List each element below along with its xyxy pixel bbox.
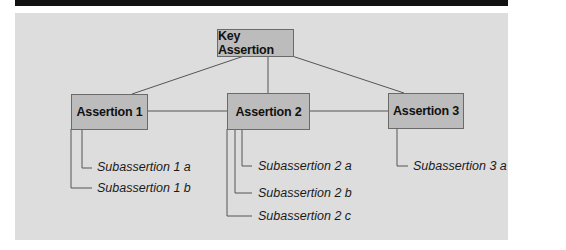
assertion-3-node: Assertion 3 — [388, 93, 464, 129]
subassertion-3a: Subassertion 3 a — [413, 159, 507, 173]
key-assertion-label: Key Assertion — [218, 29, 293, 57]
connector-a3-sub-a — [397, 128, 408, 166]
subassertion-2b: Subassertion 2 b — [258, 186, 352, 200]
assertion-1-node: Assertion 1 — [71, 94, 148, 130]
subassertion-1b: Subassertion 1 b — [97, 181, 191, 195]
assertion-2-label: Assertion 2 — [236, 105, 302, 119]
connector-a2-sub-a — [242, 129, 252, 166]
subassertion-1a: Subassertion 1 a — [97, 160, 191, 174]
assertion-3-label: Assertion 3 — [393, 104, 459, 118]
connector-key-to-a3 — [292, 56, 404, 93]
connector-a1-sub-a — [82, 129, 92, 168]
subassertion-2c: Subassertion 2 c — [258, 209, 351, 223]
connector-a2-sub-b — [235, 129, 252, 193]
connector-key-to-a1 — [132, 56, 244, 94]
subassertion-2a: Subassertion 2 a — [258, 159, 352, 173]
assertion-2-node: Assertion 2 — [227, 93, 310, 130]
connector-a2-sub-c — [227, 129, 252, 216]
key-assertion-node: Key Assertion — [217, 29, 294, 57]
assertion-1-label: Assertion 1 — [77, 105, 143, 119]
